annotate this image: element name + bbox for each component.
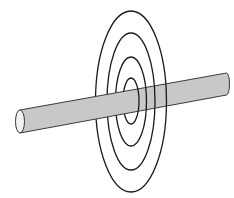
diagram-svg — [0, 0, 234, 198]
conductor-end-cap — [16, 110, 25, 133]
field-diagram — [0, 0, 234, 198]
conductor-wire — [16, 73, 230, 133]
conductor-body — [20, 73, 230, 133]
